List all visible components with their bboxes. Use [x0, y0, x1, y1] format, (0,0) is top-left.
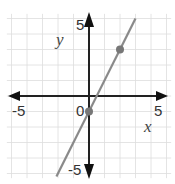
x-tick-5: 5 — [154, 102, 162, 119]
y-axis-up-arrow-icon — [84, 12, 94, 27]
y-axis-label: y — [54, 30, 64, 49]
x-tick-neg5: -5 — [12, 102, 25, 119]
y-tick-5: 5 — [76, 16, 84, 33]
x-axis-left-arrow-icon — [8, 91, 20, 101]
coordinate-plane: -5 5 5 -5 0 y x — [0, 0, 175, 184]
data-point — [116, 46, 124, 54]
x-axis-label: x — [143, 117, 152, 136]
data-point — [85, 108, 93, 116]
graph-line — [56, 19, 135, 177]
y-axis-down-arrow-icon — [84, 164, 94, 179]
y-tick-neg5: -5 — [68, 161, 81, 178]
origin-label: 0 — [76, 102, 84, 119]
